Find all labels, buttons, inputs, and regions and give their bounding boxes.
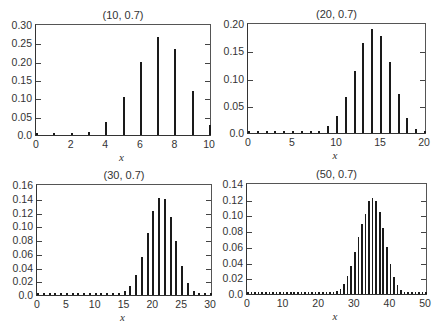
y-tick-mark [206, 269, 211, 270]
y-tick-mark [37, 269, 42, 270]
probability-bar [358, 237, 360, 294]
probability-bar [301, 131, 303, 134]
probability-bar [311, 292, 313, 295]
probability-bar [60, 293, 62, 296]
probability-bar [336, 116, 338, 133]
probability-bar [382, 228, 384, 294]
x-axis-label: x [120, 311, 125, 323]
probability-bar [174, 49, 176, 135]
probability-bar [329, 292, 331, 295]
y-tick-mark [37, 241, 42, 242]
probability-bar [365, 214, 367, 294]
probability-bar [336, 291, 338, 294]
probability-bar [83, 293, 85, 296]
probability-bar [181, 266, 183, 295]
y-tick-mark [205, 44, 210, 45]
y-tick-mark [205, 99, 210, 100]
probability-bar [333, 292, 335, 295]
probability-bar [318, 131, 320, 134]
y-tick-label: 0.20 [212, 19, 244, 29]
probability-bar [386, 247, 388, 294]
probability-bar [308, 292, 310, 295]
probability-bar [53, 133, 55, 136]
probability-bar [276, 292, 278, 295]
probability-bar [372, 198, 374, 294]
y-tick-label: 0.08 [211, 226, 243, 236]
probability-bar [123, 97, 125, 135]
y-tick-mark [248, 52, 253, 53]
y-tick-label: 0.10 [212, 74, 244, 84]
probability-bar [175, 241, 177, 295]
y-tick-mark [205, 118, 210, 119]
x-tick-label: 50 [415, 298, 435, 308]
probability-bar [375, 201, 377, 294]
y-tick-label: 0.10 [1, 221, 33, 231]
y-tick-mark [36, 81, 41, 82]
probability-bar [157, 37, 159, 135]
y-tick-label: 0.30 [0, 20, 32, 30]
probability-bar [187, 283, 189, 295]
y-tick-label: 0.25 [0, 38, 32, 48]
y-tick-label: 0.10 [211, 210, 243, 220]
y-tick-mark [36, 99, 41, 100]
probability-bar [318, 292, 320, 295]
y-tick-mark [248, 107, 253, 108]
probability-bar [345, 97, 347, 133]
y-tick-label: 0.16 [1, 180, 33, 190]
probability-bar [283, 292, 285, 295]
plot-area [246, 183, 427, 295]
probability-bar [297, 292, 299, 295]
y-tick-label: 0.06 [211, 242, 243, 252]
plot-area [35, 24, 211, 136]
probability-bar [290, 292, 292, 295]
probability-bar [265, 292, 267, 295]
probability-bar [71, 133, 73, 136]
probability-bar [340, 289, 342, 294]
probability-bar [301, 292, 303, 295]
y-tick-mark [420, 52, 425, 53]
probability-bar [418, 292, 420, 295]
probability-bar [293, 292, 295, 295]
x-tick-label: 15 [114, 299, 134, 309]
y-tick-label: 0.10 [0, 93, 32, 103]
probability-bar [362, 43, 364, 133]
y-tick-label: 0.05 [212, 101, 244, 111]
probability-bar [406, 118, 408, 133]
probability-bar [36, 133, 38, 136]
y-tick-label: 0.12 [1, 208, 33, 218]
probability-bar [209, 125, 211, 135]
x-tick-label: 20 [414, 137, 434, 147]
probability-bar [147, 233, 149, 295]
probability-bar [106, 293, 108, 296]
y-tick-mark [421, 279, 426, 280]
y-tick-mark [37, 200, 42, 201]
probability-bar [251, 292, 253, 295]
probability-bar [310, 131, 312, 134]
x-tick-label: 30 [344, 298, 364, 308]
y-tick-label: 0.14 [211, 179, 243, 189]
probability-bar [170, 217, 172, 295]
probability-bar [158, 198, 160, 295]
x-tick-label: 6 [130, 139, 150, 149]
y-tick-mark [36, 63, 41, 64]
chart-title: (30, 0.7) [36, 169, 212, 181]
x-axis-label: x [333, 149, 338, 161]
probability-bar [407, 292, 409, 295]
probability-bar [368, 201, 370, 294]
probability-bar [361, 224, 363, 294]
x-tick-label: 25 [171, 299, 191, 309]
chart-title: (10, 0.7) [35, 9, 211, 21]
probability-bar [95, 293, 97, 296]
y-tick-mark [247, 264, 252, 265]
probability-bar [393, 277, 395, 294]
probability-bar [404, 292, 406, 295]
probability-bar [279, 292, 281, 295]
probability-bar [261, 292, 263, 295]
probability-bar [371, 29, 373, 133]
probability-bar [415, 292, 417, 295]
x-tick-label: 10 [199, 139, 219, 149]
y-tick-mark [206, 255, 211, 256]
probability-bar [283, 131, 285, 134]
y-tick-label: 0.02 [211, 273, 243, 283]
probability-bar [77, 293, 79, 296]
